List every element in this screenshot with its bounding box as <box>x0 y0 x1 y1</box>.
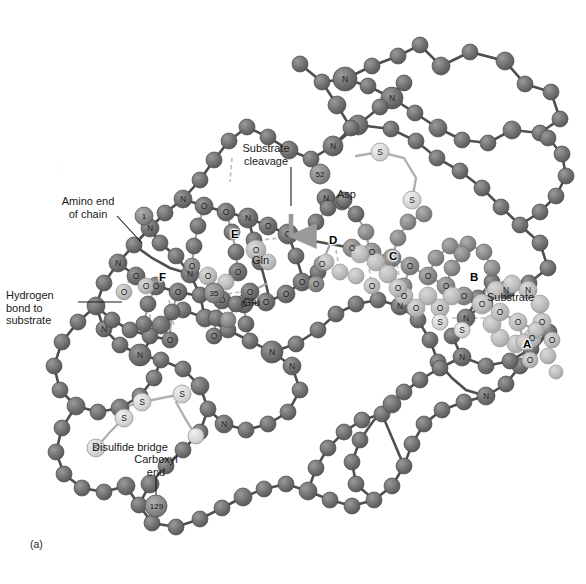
svg-text:O: O <box>443 281 450 291</box>
svg-text:O: O <box>133 271 140 281</box>
svg-text:O: O <box>235 267 242 277</box>
svg-text:O: O <box>413 303 420 313</box>
svg-text:N: N <box>269 347 275 357</box>
site-marker-f: F <box>159 271 166 283</box>
svg-text:O: O <box>319 259 326 269</box>
svg-text:O: O <box>479 299 486 309</box>
svg-text:O: O <box>407 261 414 271</box>
svg-text:O: O <box>437 303 444 313</box>
svg-text:O: O <box>223 207 230 217</box>
svg-text:S: S <box>409 195 415 205</box>
svg-text:S: S <box>139 397 145 407</box>
svg-text:N: N <box>245 213 251 223</box>
site-marker-a: A <box>523 338 531 350</box>
svg-text:N: N <box>342 74 348 84</box>
svg-text:S: S <box>437 317 443 327</box>
asp-label: Asp <box>337 188 356 201</box>
svg-text:O: O <box>265 221 272 231</box>
svg-text:N: N <box>323 193 329 203</box>
svg-text:N: N <box>463 313 469 323</box>
svg-text:N: N <box>137 350 143 360</box>
svg-text:N: N <box>221 419 227 429</box>
svg-text:S: S <box>377 147 383 157</box>
svg-text:O: O <box>211 331 218 341</box>
svg-text:O: O <box>349 243 356 253</box>
svg-text:O: O <box>283 289 290 299</box>
hydrogen-bond-label: Hydrogen bond to substrate <box>6 289 54 327</box>
panel-label: (a) <box>30 538 43 550</box>
svg-text:N: N <box>289 361 295 371</box>
svg-text:O: O <box>425 271 432 281</box>
lysozyme-diagram: SS SS SS SS NNN NNN NNN NNN NNN NNN NN O… <box>0 0 586 584</box>
svg-text:O: O <box>189 261 196 271</box>
svg-text:O: O <box>369 247 376 257</box>
svg-text:O: O <box>263 297 270 307</box>
svg-text:O: O <box>205 271 212 281</box>
svg-text:O: O <box>401 291 408 301</box>
svg-text:O: O <box>549 335 556 345</box>
gln-label: Gln <box>252 254 269 267</box>
svg-text:O: O <box>167 335 174 345</box>
svg-text:N: N <box>389 93 395 103</box>
svg-text:O: O <box>369 281 376 291</box>
svg-text:O: O <box>121 287 128 297</box>
svg-text:S: S <box>459 325 465 335</box>
svg-text:N: N <box>330 141 336 151</box>
site-marker-c: C <box>389 250 397 262</box>
residue-number-129: 129 <box>146 501 167 514</box>
svg-text:N: N <box>101 324 107 334</box>
residue-number-1: 1 <box>136 211 152 224</box>
svg-text:O: O <box>143 281 150 291</box>
svg-text:O: O <box>313 279 320 289</box>
svg-text:O: O <box>515 317 522 327</box>
substrate-label: Substrate <box>487 291 534 304</box>
svg-text:S: S <box>121 413 127 423</box>
residue-number-35: 35 <box>205 288 223 301</box>
carboxyl-end-label: Carboxyl end <box>120 453 192 478</box>
svg-text:O: O <box>175 287 182 297</box>
svg-text:O: O <box>539 317 546 327</box>
substrate-cleavage-label: Substrate cleavage <box>216 142 316 167</box>
svg-text:O: O <box>299 277 306 287</box>
svg-text:O: O <box>527 355 534 365</box>
svg-text:O: O <box>201 201 208 211</box>
svg-text:N: N <box>180 194 186 204</box>
svg-text:N: N <box>459 352 465 362</box>
residue-number-52: 52 <box>311 169 329 182</box>
svg-text:O: O <box>395 283 402 293</box>
svg-text:N: N <box>115 258 121 268</box>
site-marker-b: B <box>470 271 478 283</box>
svg-text:N: N <box>483 391 489 401</box>
svg-text:S: S <box>179 389 185 399</box>
glu-label: Glu <box>243 296 260 309</box>
svg-text:N: N <box>397 301 403 311</box>
svg-text:O: O <box>461 291 468 301</box>
site-marker-e: E <box>231 228 239 240</box>
svg-text:O: O <box>497 307 504 317</box>
site-marker-d: D <box>329 234 337 246</box>
disulfide-bridge-label: Disulfide bridge <box>92 441 168 454</box>
amino-end-label: Amino end of chain <box>36 195 140 220</box>
